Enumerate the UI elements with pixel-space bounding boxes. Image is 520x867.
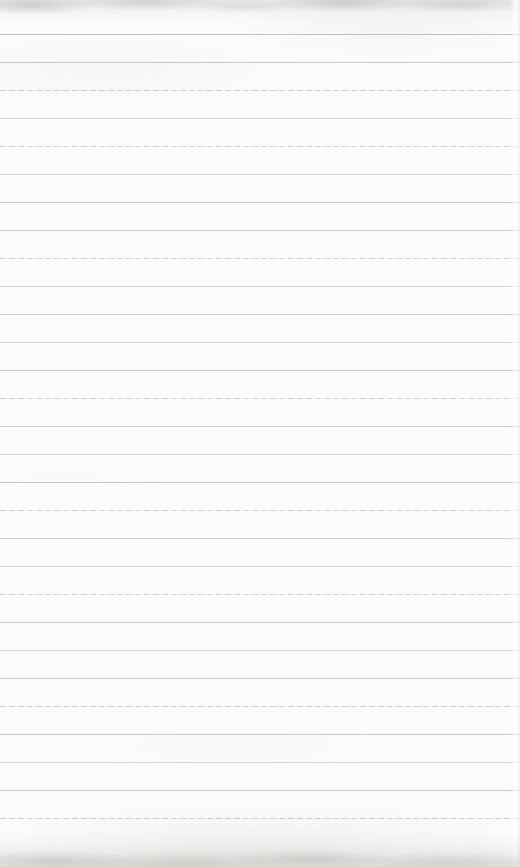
ruled-line bbox=[0, 790, 520, 791]
ruled-line bbox=[0, 538, 520, 539]
top-edge-scan-texture bbox=[0, 0, 520, 26]
ruled-line bbox=[0, 258, 520, 259]
ruled-line bbox=[0, 594, 520, 595]
bottom-edge-scan-texture bbox=[0, 829, 520, 867]
ruled-line bbox=[0, 370, 520, 371]
ruled-line bbox=[0, 62, 520, 63]
ruled-line bbox=[0, 174, 520, 175]
ruled-line bbox=[0, 454, 520, 455]
ruled-line bbox=[0, 734, 520, 735]
ruled-line bbox=[0, 398, 520, 399]
ruled-line bbox=[0, 482, 520, 483]
ruled-line bbox=[0, 230, 520, 231]
ruled-line bbox=[0, 706, 520, 707]
paper-texture bbox=[0, 0, 520, 867]
ruled-line bbox=[0, 342, 520, 343]
ruled-line bbox=[0, 622, 520, 623]
ruled-line bbox=[0, 566, 520, 567]
ruled-line bbox=[0, 314, 520, 315]
ruled-line bbox=[0, 818, 520, 819]
ruled-line bbox=[0, 146, 520, 147]
ruled-line bbox=[0, 118, 520, 119]
right-edge-highlight bbox=[510, 0, 520, 867]
ruled-line bbox=[0, 678, 520, 679]
ruled-line bbox=[0, 34, 520, 35]
ruled-line bbox=[0, 510, 520, 511]
ruled-line bbox=[0, 426, 520, 427]
ruled-line bbox=[0, 202, 520, 203]
ruled-line bbox=[0, 762, 520, 763]
ruled-line bbox=[0, 286, 520, 287]
lined-paper-page bbox=[0, 0, 520, 867]
ruled-line bbox=[0, 650, 520, 651]
ruled-line bbox=[0, 90, 520, 91]
